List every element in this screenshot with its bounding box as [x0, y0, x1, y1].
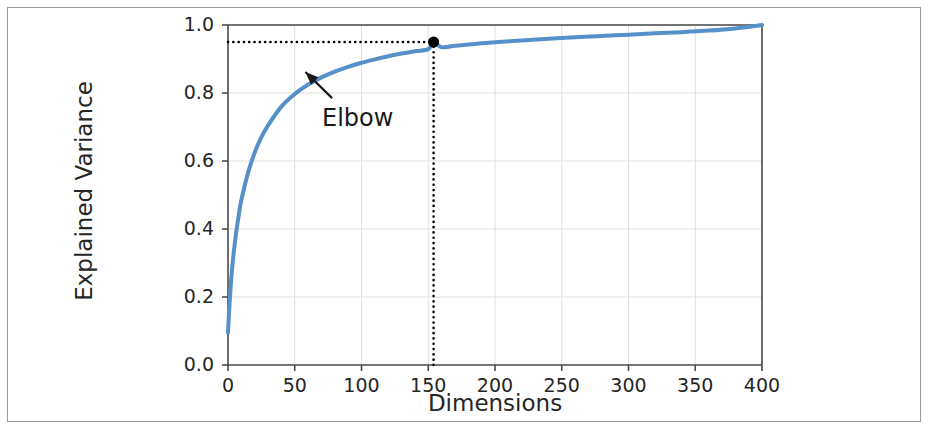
y-axis-title: Explained Variance — [71, 31, 97, 351]
x-tick-label: 350 — [660, 374, 730, 396]
x-tick-label: 300 — [594, 374, 664, 396]
chart-figure: Explained Variance Dimensions Elbow 0.00… — [0, 0, 933, 431]
y-tick-label: 0.6 — [154, 149, 214, 171]
y-tick-label: 1.0 — [154, 13, 214, 35]
elbow-annotation-label: Elbow — [322, 104, 393, 132]
y-tick-label: 0.2 — [154, 285, 214, 307]
x-tick-label: 0 — [193, 374, 263, 396]
x-tick-label: 100 — [327, 374, 397, 396]
x-tick-label: 200 — [460, 374, 530, 396]
y-tick-label: 0.4 — [154, 217, 214, 239]
data-markers — [428, 37, 439, 48]
y-tick-label: 0.8 — [154, 81, 214, 103]
tick-marks — [222, 25, 762, 371]
y-tick-label: 0.0 — [154, 353, 214, 375]
x-tick-label: 150 — [393, 374, 463, 396]
reference-lines — [228, 42, 434, 365]
x-tick-label: 250 — [527, 374, 597, 396]
x-tick-label: 50 — [260, 374, 330, 396]
plot-canvas — [0, 0, 933, 431]
x-tick-label: 400 — [727, 374, 797, 396]
